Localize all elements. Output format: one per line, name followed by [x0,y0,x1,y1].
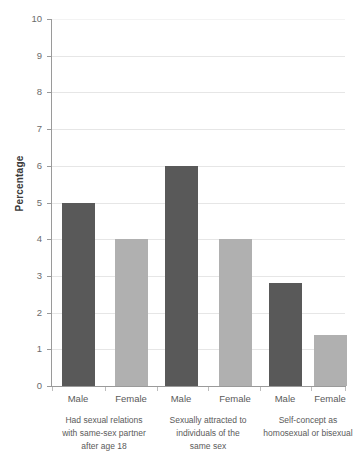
x-tick-5 [311,387,312,391]
y-tick-label-3: 3 [16,271,42,281]
bar-male-group2 [269,283,302,386]
y-tick-label-0: 0 [16,381,42,391]
plot-area [52,19,345,386]
group-label-2-line-0: Self-concept as [248,414,361,427]
x-tick-4 [260,387,261,391]
bar-label-male-group1: Male [151,392,211,405]
x-tick-2 [157,387,158,391]
y-tick-label-9: 9 [16,51,42,61]
group-label-1-line-2: same sex [148,440,268,453]
bar-female-group0 [115,239,148,386]
bar-female-group2 [314,335,347,386]
y-tick-label-1: 1 [16,344,42,354]
bar-male-group1 [165,166,198,386]
x-tick-6 [345,387,346,391]
y-axis-title: Percentage [14,139,25,229]
y-tick-label-5: 5 [16,198,42,208]
bar-chart: Percentage 109876543210 MaleFemaleMaleFe… [0,0,361,463]
y-tick-label-10: 10 [16,14,42,24]
y-tick-label-6: 6 [16,161,42,171]
x-axis-line [51,386,346,387]
bar-label-female-group2: Female [300,392,360,405]
bar-female-group1 [219,239,252,386]
group-label-0-line-1: with same-sex partner [44,427,164,440]
bar-male-group0 [62,203,95,387]
y-tick-label-8: 8 [16,87,42,97]
group-label-0-line-0: Had sexual relations [44,414,164,427]
x-tick-0 [52,387,53,391]
group-label-2-line-1: homosexual or bisexual [248,427,361,440]
y-tick-label-2: 2 [16,308,42,318]
group-label-2: Self-concept ashomosexual or bisexual [248,414,361,440]
y-tick-label-7: 7 [16,124,42,134]
x-tick-1 [105,387,106,391]
y-tick-label-4: 4 [16,234,42,244]
bar-label-male-group0: Male [48,392,108,405]
x-tick-3 [208,387,209,391]
group-label-0: Had sexual relationswith same-sex partne… [44,414,164,453]
group-label-0-line-2: after age 18 [44,440,164,453]
